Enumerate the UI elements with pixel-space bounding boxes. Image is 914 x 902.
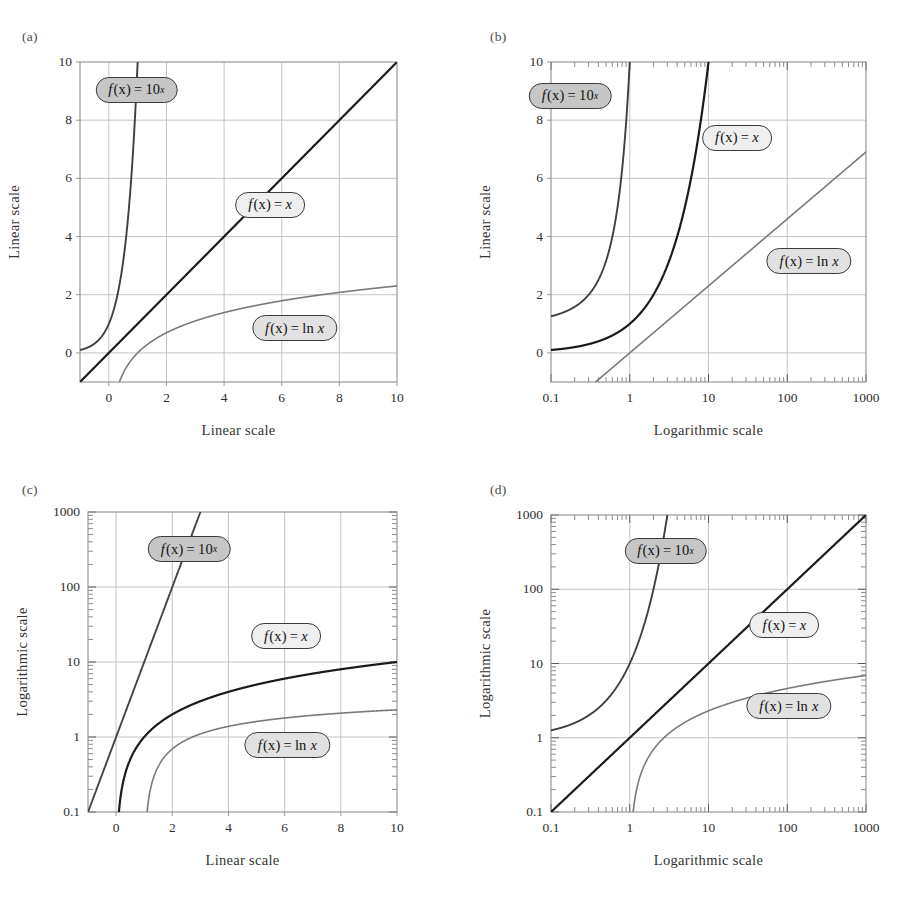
callout-base: 10 — [198, 541, 213, 558]
callout-op: = — [660, 542, 674, 559]
callout-arg: (x) — [270, 320, 288, 337]
x-major-ticks — [116, 812, 397, 816]
callout-base: 10 — [675, 542, 690, 559]
y-tick-label: 6 — [493, 170, 543, 186]
y-tick-label: 10 — [493, 656, 543, 672]
curve-10x — [74, 0, 149, 351]
y-tick-label: 8 — [493, 112, 543, 128]
y-tick-label: 6 — [22, 170, 72, 186]
y-tick-label: 1 — [493, 730, 543, 746]
callout-rhs: x — [301, 628, 308, 645]
callout-identity: f(x)=x — [251, 623, 321, 649]
x-tick-label: 6 — [278, 390, 285, 406]
callout-base: 10 — [579, 87, 594, 104]
callout-identity: f(x)=x — [702, 125, 772, 151]
callout-op: = — [288, 320, 302, 337]
y-tick-label: 4 — [493, 229, 543, 245]
x-tick-label: 4 — [225, 820, 232, 836]
callout-ln: ln — [817, 253, 829, 270]
x-axis-title: Linear scale — [80, 422, 397, 439]
curve-10x — [545, 0, 641, 318]
y-tick-label: 0 — [493, 345, 543, 361]
callout-arg: (x) — [785, 253, 803, 270]
callout-exp: f(x)=10x — [148, 536, 230, 562]
panel-c-plot-area: 02468100.11101001000Linear scaleLogarith… — [0, 452, 457, 902]
callout-exponent: x — [689, 546, 693, 556]
callout-ln: f(x)=ln x — [252, 315, 337, 341]
x-tick-label: 0.1 — [543, 390, 560, 406]
callout-op: = — [802, 253, 816, 270]
x-tick-label: 6 — [281, 820, 288, 836]
curve-x — [74, 56, 404, 389]
callout-arg: (x) — [768, 617, 786, 634]
y-tick-label: 10 — [30, 654, 80, 670]
callout-rhs: x — [828, 253, 838, 270]
curve-x — [545, 0, 738, 350]
x-tick-label: 100 — [777, 390, 797, 406]
callout-ln: f(x)=ln x — [245, 732, 330, 758]
x-tick-label: 1000 — [853, 390, 880, 406]
panel-d: (d) 0.111010010000.11101001000Logarithmi… — [457, 452, 914, 902]
callout-exponent: x — [594, 91, 598, 101]
x-axis-title: Logarithmic scale — [551, 852, 866, 869]
x-tick-label: 8 — [337, 820, 344, 836]
callout-arg: (x) — [114, 81, 132, 98]
y-tick-label: 2 — [22, 287, 72, 303]
y-tick-label: 100 — [30, 579, 80, 595]
x-tick-label: 4 — [221, 390, 228, 406]
figure-root: (a) 02468100246810Linear scaleLinear sca… — [0, 0, 914, 902]
y-axis-title: Logarithmic scale — [14, 512, 31, 812]
y-tick-label: 0.1 — [493, 804, 543, 820]
y-tick-label: 4 — [22, 229, 72, 245]
callout-base: 10 — [145, 81, 160, 98]
callout-arg: (x) — [547, 87, 565, 104]
callout-arg: (x) — [269, 628, 287, 645]
y-major-ticks — [76, 62, 80, 353]
x-tick-label: 100 — [777, 820, 797, 836]
y-axis-title: Linear scale — [477, 62, 494, 382]
x-tick-label: 0 — [113, 820, 120, 836]
callout-op: = — [287, 628, 301, 645]
callout-identity: f(x)=x — [235, 192, 305, 218]
callout-op: = — [184, 541, 198, 558]
callout-exponent: x — [213, 544, 217, 554]
callout-rhs: x — [752, 129, 759, 146]
callout-arg: (x) — [166, 541, 184, 558]
y-axis-title: Logarithmic scale — [477, 515, 494, 812]
panel-d-plot-area: 0.111010010000.11101001000Logarithmic sc… — [457, 452, 914, 902]
x-tick-label: 1 — [626, 390, 633, 406]
callout-ln: ln — [295, 737, 307, 754]
x-tick-label: 2 — [163, 390, 170, 406]
panel-c: (c) 02468100.11101001000Linear scaleLoga… — [0, 452, 457, 902]
x-tick-label: 10 — [702, 820, 716, 836]
callout-arg: (x) — [720, 129, 738, 146]
gridlines — [88, 512, 397, 812]
callout-rhs: x — [314, 320, 324, 337]
callout-op: = — [565, 87, 579, 104]
callout-ln: f(x)=ln x — [746, 693, 831, 719]
callout-exp: f(x)=10x — [624, 538, 706, 564]
callout-identity: f(x)=x — [750, 612, 820, 638]
y-tick-label: 1 — [30, 729, 80, 745]
x-tick-label: 10 — [390, 820, 404, 836]
y-tick-label: 100 — [493, 581, 543, 597]
callout-op: = — [271, 196, 285, 213]
y-axis-title: Linear scale — [6, 62, 23, 382]
x-tick-label: 0 — [105, 390, 112, 406]
panel-a: (a) 02468100246810Linear scaleLinear sca… — [0, 0, 457, 452]
x-tick-label: 8 — [336, 390, 343, 406]
callout-op: = — [785, 617, 799, 634]
callout-op: = — [738, 129, 752, 146]
y-tick-label: 1000 — [30, 504, 80, 520]
x-axis-title: Linear scale — [88, 852, 397, 869]
callout-arg: (x) — [263, 737, 281, 754]
y-tick-label: 8 — [22, 112, 72, 128]
y-tick-label: 1000 — [493, 507, 543, 523]
callout-ln: ln — [302, 320, 314, 337]
callout-rhs: x — [800, 617, 807, 634]
x-tick-label: 1000 — [853, 820, 880, 836]
y-tick-label: 0 — [22, 345, 72, 361]
callout-rhs: x — [808, 698, 818, 715]
x-tick-label: 0.1 — [543, 820, 560, 836]
panel-a-plot-area: 02468100246810Linear scaleLinear scalef(… — [0, 0, 457, 452]
